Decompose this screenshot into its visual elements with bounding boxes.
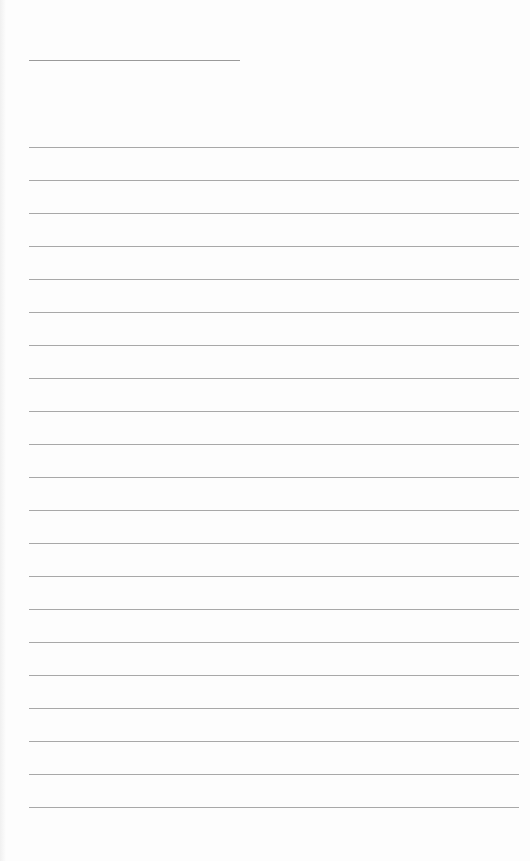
ruled-line <box>29 279 519 280</box>
header-name-line <box>29 60 240 61</box>
ruled-line <box>29 477 519 478</box>
ruled-line <box>29 510 519 511</box>
ruled-line <box>29 147 519 148</box>
ruled-line <box>29 411 519 412</box>
ruled-line <box>29 246 519 247</box>
ruled-line <box>29 345 519 346</box>
ruled-line <box>29 741 519 742</box>
ruled-line <box>29 708 519 709</box>
ruled-line <box>29 180 519 181</box>
ruled-line <box>29 774 519 775</box>
ruled-line <box>29 213 519 214</box>
page-edge-shadow <box>0 0 6 861</box>
ruled-line <box>29 609 519 610</box>
ruled-line <box>29 444 519 445</box>
ruled-line <box>29 576 519 577</box>
ruled-line <box>29 312 519 313</box>
ruled-line <box>29 642 519 643</box>
ruled-line <box>29 807 519 808</box>
ruled-line <box>29 675 519 676</box>
ruled-line <box>29 378 519 379</box>
ruled-line <box>29 543 519 544</box>
lined-paper-sheet <box>0 0 530 861</box>
